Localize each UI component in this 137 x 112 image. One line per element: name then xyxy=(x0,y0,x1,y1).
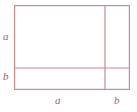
outer-rectangle xyxy=(15,6,130,90)
geometry-diagram-figure: a b a b xyxy=(0,0,137,112)
label-bottom-side-b: b xyxy=(114,95,120,106)
label-left-side-b: b xyxy=(3,71,9,82)
label-bottom-side-a: a xyxy=(55,95,61,106)
label-left-side-a: a xyxy=(3,31,9,42)
